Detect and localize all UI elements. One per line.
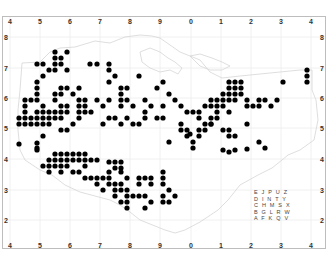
occurrence-dot (52, 97, 57, 102)
occurrence-dot (304, 73, 309, 78)
occurrence-dot (100, 175, 105, 180)
occurrence-dot (238, 85, 243, 90)
y-tick-label: 5 (320, 125, 324, 132)
occurrence-dot (34, 85, 39, 90)
occurrence-dot (142, 193, 147, 198)
occurrence-dot (136, 193, 141, 198)
occurrence-dot (124, 199, 129, 204)
occurrence-dot (40, 121, 45, 126)
occurrence-dot (250, 103, 255, 108)
y-tick-label: 6 (4, 95, 8, 102)
occurrence-dot (160, 169, 165, 174)
occurrence-dot (226, 85, 231, 90)
occurrence-dot (268, 103, 273, 108)
occurrence-dot (130, 193, 135, 198)
x-tick-label: 3 (279, 18, 283, 25)
occurrence-dot (226, 97, 231, 102)
occurrence-dot (64, 67, 69, 72)
y-tick-label: 7 (320, 65, 324, 72)
occurrence-dot (64, 49, 69, 54)
occurrence-dot (40, 133, 45, 138)
occurrence-dot (136, 181, 141, 186)
occurrence-dot (76, 169, 81, 174)
occurrence-dot (52, 115, 57, 120)
occurrence-dot (58, 61, 63, 66)
grid-letter-legend: E J P U Z D I N T Y C H M S X B G L R W … (254, 189, 291, 222)
occurrence-dot (256, 139, 261, 144)
occurrence-dot (52, 55, 57, 60)
occurrence-dot (22, 97, 27, 102)
occurrence-dot (22, 103, 27, 108)
occurrence-dot (58, 85, 63, 90)
x-tick-label: 7 (98, 242, 102, 249)
occurrence-dot (52, 157, 57, 162)
occurrence-dot (58, 115, 63, 120)
occurrence-dot (70, 157, 75, 162)
occurrence-dot (208, 115, 213, 120)
occurrence-dot (70, 91, 75, 96)
occurrence-dot (202, 103, 207, 108)
occurrence-dot (124, 115, 129, 120)
occurrence-dot (40, 163, 45, 168)
occurrence-dot (118, 159, 123, 164)
occurrence-dot (82, 151, 87, 156)
occurrence-dot (232, 85, 237, 90)
x-tick-label: 5 (38, 18, 42, 25)
legend-row: A F K Q V (254, 215, 291, 222)
occurrence-dot (94, 157, 99, 162)
x-tick-label: 1 (219, 242, 223, 249)
occurrence-dot (58, 109, 63, 114)
y-tick-label: 2 (320, 217, 324, 224)
occurrence-dot (136, 121, 141, 126)
legend-row: C H M S X (254, 202, 291, 209)
occurrence-dot (148, 175, 153, 180)
occurrence-dot (190, 139, 195, 144)
occurrence-dot (196, 127, 201, 132)
occurrence-dot (28, 115, 33, 120)
occurrence-dot (214, 115, 219, 120)
occurrence-dot (64, 157, 69, 162)
occurrence-dot (184, 109, 189, 114)
occurrence-dot (148, 181, 153, 186)
occurrence-dot (124, 187, 129, 192)
x-tick-label: 9 (158, 242, 162, 249)
occurrence-dot (52, 67, 57, 72)
x-tick-label: 0 (189, 242, 193, 249)
occurrence-dot (76, 151, 81, 156)
occurrence-dot (40, 73, 45, 78)
occurrence-dot (52, 49, 57, 54)
occurrence-dot (220, 97, 225, 102)
occurrence-dot (94, 61, 99, 66)
y-tick-label: 2 (4, 217, 8, 224)
occurrence-dot (46, 109, 51, 114)
occurrence-dot (70, 121, 75, 126)
occurrence-dot (46, 169, 51, 174)
occurrence-dot (160, 175, 165, 180)
occurrence-dot (220, 147, 225, 152)
occurrence-dot (100, 103, 105, 108)
occurrence-dot (226, 149, 231, 154)
occurrence-dot (124, 97, 129, 102)
occurrence-dot (64, 109, 69, 114)
occurrence-dot (52, 91, 57, 96)
occurrence-dot (16, 115, 21, 120)
occurrence-dot (22, 115, 27, 120)
x-tick-label: 4 (8, 18, 12, 25)
occurrence-dot (244, 103, 249, 108)
occurrence-dot (244, 121, 249, 126)
occurrence-dot (208, 121, 213, 126)
occurrence-dot (87, 61, 92, 66)
occurrence-dot (40, 109, 45, 114)
occurrence-dot (220, 91, 225, 96)
x-tick-label: 1 (219, 18, 223, 25)
occurrence-dot (94, 97, 99, 102)
y-tick-label: 3 (320, 187, 324, 194)
occurrence-dot (172, 193, 177, 198)
x-tick-label: 4 (309, 242, 313, 249)
x-tick-label: 7 (98, 18, 102, 25)
occurrence-dot (202, 127, 207, 132)
occurrence-dot (46, 67, 51, 72)
occurrence-dot (118, 169, 123, 174)
occurrence-dot (196, 109, 201, 114)
occurrence-dot (226, 79, 231, 84)
